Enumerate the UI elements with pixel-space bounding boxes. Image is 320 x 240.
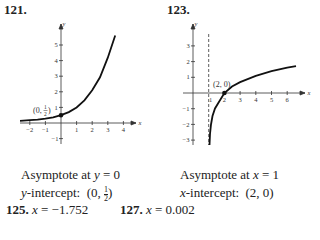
svg-text:y: y	[194, 20, 198, 27]
svg-text:3: 3	[106, 126, 109, 133]
svg-text:(0,: (0,	[33, 106, 42, 115]
svg-text:1: 1	[44, 104, 47, 110]
svg-text:1: 1	[75, 126, 78, 133]
svg-text:3: 3	[186, 42, 189, 49]
answer-125: 125. x = −1.752	[6, 202, 88, 218]
svg-text:2: 2	[44, 111, 47, 117]
svg-text:−2: −2	[183, 121, 190, 128]
svg-text:4: 4	[54, 57, 58, 64]
asymptote-123: Asymptote at x = 1	[180, 167, 279, 183]
svg-text:−1: −1	[52, 135, 59, 142]
svg-text:4: 4	[122, 126, 126, 133]
svg-text:1: 1	[54, 104, 57, 111]
asymptote-121: Asymptote at y = 0	[21, 167, 120, 183]
svg-text:−2: −2	[26, 126, 33, 133]
svg-text:1: 1	[209, 96, 212, 103]
svg-text:−1: −1	[183, 105, 190, 112]
answer-127: 127. x = 0.002	[120, 202, 195, 218]
svg-text:1: 1	[186, 73, 189, 80]
svg-text:4: 4	[254, 96, 258, 103]
svg-text:x: x	[138, 119, 142, 126]
svg-text:2: 2	[91, 126, 94, 133]
intercept-value-121: (0, 12)	[83, 185, 112, 200]
curve-123	[210, 66, 297, 145]
point-label-123: (2, 0)	[213, 80, 231, 89]
svg-text:2: 2	[186, 58, 189, 65]
svg-text:2: 2	[223, 96, 226, 103]
graph-123	[183, 24, 305, 145]
svg-text:): )	[48, 106, 51, 115]
svg-text:6: 6	[286, 96, 290, 103]
svg-text:−1: −1	[42, 126, 49, 133]
intercept-123: x-intercept: (2, 0)	[180, 185, 274, 201]
svg-text:5: 5	[270, 96, 273, 103]
svg-text:−3: −3	[183, 136, 190, 143]
svg-text:3: 3	[238, 96, 241, 103]
svg-text:x: x	[307, 89, 311, 96]
svg-text:3: 3	[54, 72, 57, 79]
intercept-121: y-intercept: (0, 12)	[21, 185, 112, 203]
svg-text:y: y	[62, 20, 66, 27]
svg-text:2: 2	[54, 88, 57, 95]
svg-text:5: 5	[54, 41, 57, 48]
